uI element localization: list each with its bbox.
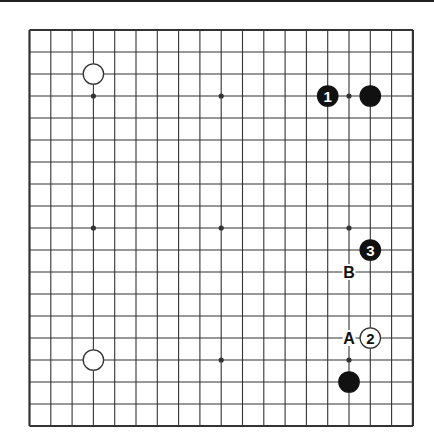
- marker-label-b: B: [343, 264, 355, 281]
- move-number-1: 1: [324, 88, 332, 105]
- go-board: BA123: [0, 0, 434, 448]
- move-number-3: 3: [366, 242, 374, 259]
- star-point: [219, 93, 224, 98]
- star-point: [219, 225, 224, 230]
- black-stone: [339, 372, 359, 392]
- star-point: [91, 225, 96, 230]
- black-stone: [360, 86, 380, 106]
- star-point: [91, 93, 96, 98]
- white-stone: [83, 350, 103, 370]
- star-point: [346, 93, 351, 98]
- white-stone: [83, 64, 103, 84]
- marker-label-a: A: [343, 330, 355, 347]
- star-point: [219, 357, 224, 362]
- star-point: [346, 225, 351, 230]
- star-point: [346, 357, 351, 362]
- move-number-2: 2: [366, 330, 374, 347]
